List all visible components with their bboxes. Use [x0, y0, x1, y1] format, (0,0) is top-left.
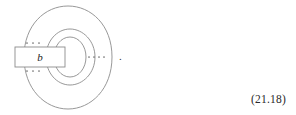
dots-below-box: [26, 70, 40, 72]
dots-above-box: [26, 42, 40, 44]
figure-container: b . (21.18): [0, 0, 296, 115]
equation-number: (21.18): [251, 93, 286, 105]
dots-between-loops: [88, 56, 105, 58]
trailing-period: .: [119, 50, 122, 62]
box-label-b: b: [37, 51, 43, 63]
